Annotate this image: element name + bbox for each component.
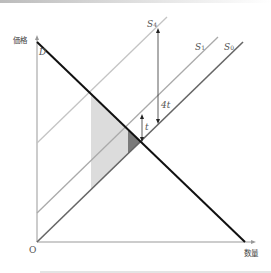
origin-label: O — [29, 245, 36, 255]
y-axis-label: 価格 — [13, 34, 27, 45]
supply-curve-s1 — [37, 37, 218, 213]
s1-label: S1 — [195, 42, 205, 52]
demand-label-text: D — [39, 47, 46, 57]
supply-demand-diagram — [0, 0, 271, 273]
arrow-up-icon — [140, 114, 144, 119]
large-tax-label: 4t — [161, 100, 170, 110]
demand-label: D — [39, 47, 46, 57]
s0-subscript: 0 — [230, 44, 234, 51]
x-axis-arrow-icon — [251, 240, 256, 244]
y-axis-arrow-icon — [35, 35, 39, 40]
s0-label: S0 — [224, 42, 234, 52]
s4-label: S4 — [147, 19, 157, 29]
small-tax-label: t — [145, 122, 149, 132]
s1-subscript: 1 — [201, 44, 205, 51]
x-axis-label: 数量 — [244, 247, 258, 258]
s4-subscript: 4 — [153, 21, 157, 28]
